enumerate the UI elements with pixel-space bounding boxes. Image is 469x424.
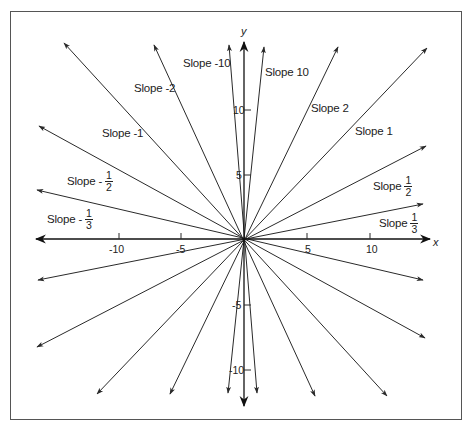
fraction-one-half: 12 (105, 170, 113, 193)
y-axis-label: y (241, 25, 247, 37)
label-slope-neg-third: Slope -13 (47, 208, 93, 231)
label-slope-third-text: Slope (379, 217, 407, 229)
fraction-one-third: 13 (410, 212, 418, 235)
x-tick-label-5: 5 (305, 243, 311, 255)
y-tick-label-neg5: -5 (232, 299, 241, 311)
y-tick-label-5: 5 (236, 169, 242, 181)
label-slope-neg10: Slope -10 (183, 57, 230, 69)
fraction-one-third: 13 (85, 208, 93, 231)
label-slope-half: Slope12 (373, 175, 412, 198)
label-slope-third: Slope13 (379, 212, 418, 235)
label-slope-neg2: Slope -2 (134, 82, 175, 94)
label-slope-2: Slope 2 (311, 102, 349, 114)
line-slope-neg1 (64, 43, 387, 396)
label-slope-10: Slope 10 (265, 66, 309, 78)
y-tick-label-neg10: -10 (229, 364, 244, 376)
x-tick-label-10: 10 (366, 243, 378, 255)
label-slope-half-text: Slope (373, 180, 401, 192)
label-slope-neg-third-text: Slope - (47, 213, 82, 225)
line-slope-neg2 (154, 45, 315, 396)
label-slope-neg-half: Slope -12 (67, 170, 113, 193)
fraction-one-half: 12 (404, 175, 412, 198)
line-slope-1 (97, 48, 427, 394)
x-tick-label-neg5: -5 (176, 243, 185, 255)
x-tick-label-neg10: -10 (109, 243, 124, 255)
label-slope-1: Slope 1 (355, 125, 393, 137)
line-slope-neg-third (37, 190, 423, 280)
y-tick-label-10: 10 (233, 104, 245, 116)
label-slope-neg1: Slope -1 (102, 127, 143, 139)
label-slope-neg-half-text: Slope - (67, 175, 102, 187)
x-axis-label: x (433, 236, 439, 248)
line-slope-2 (170, 47, 338, 394)
